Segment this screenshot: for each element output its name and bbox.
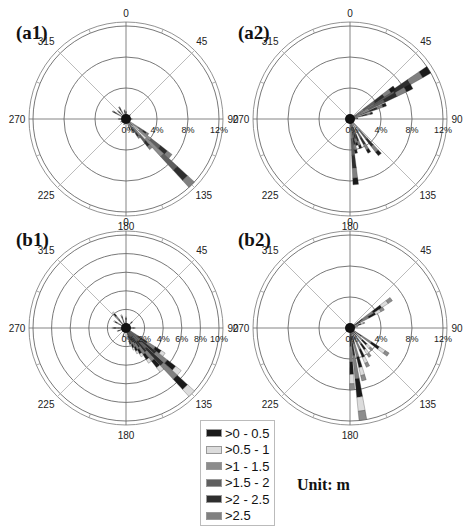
svg-text:270: 270 bbox=[233, 114, 250, 125]
svg-text:180: 180 bbox=[342, 430, 359, 441]
unit-label: Unit: m bbox=[297, 476, 350, 494]
svg-text:0%: 0% bbox=[345, 125, 358, 135]
svg-text:0: 0 bbox=[123, 8, 129, 19]
svg-text:12%: 12% bbox=[210, 125, 228, 135]
svg-text:4%: 4% bbox=[157, 334, 170, 344]
svg-text:4%: 4% bbox=[150, 125, 163, 135]
legend-item: >1.5 - 2 bbox=[206, 475, 274, 492]
svg-text:315: 315 bbox=[262, 36, 279, 47]
svg-text:225: 225 bbox=[262, 399, 279, 410]
legend-swatch bbox=[206, 446, 222, 454]
svg-text:8%: 8% bbox=[194, 334, 207, 344]
svg-text:12%: 12% bbox=[434, 334, 452, 344]
legend-swatch bbox=[206, 479, 222, 487]
svg-text:45: 45 bbox=[420, 36, 432, 47]
legend: >0 - 0.5 >0.5 - 1 >1 - 1.5 >1.5 - 2 >2 -… bbox=[200, 420, 275, 526]
svg-text:4%: 4% bbox=[374, 334, 387, 344]
svg-text:315: 315 bbox=[262, 245, 279, 256]
svg-text:135: 135 bbox=[419, 190, 436, 201]
svg-text:6%: 6% bbox=[175, 334, 188, 344]
svg-text:0%: 0% bbox=[121, 334, 134, 344]
svg-text:90: 90 bbox=[451, 114, 463, 125]
svg-text:10%: 10% bbox=[210, 334, 228, 344]
svg-text:45: 45 bbox=[196, 245, 208, 256]
svg-text:135: 135 bbox=[419, 399, 436, 410]
legend-item: >0.5 - 1 bbox=[206, 442, 274, 459]
svg-text:270: 270 bbox=[233, 323, 250, 334]
legend-swatch bbox=[206, 462, 222, 470]
svg-text:0: 0 bbox=[347, 217, 353, 228]
svg-text:2%: 2% bbox=[138, 334, 151, 344]
svg-text:45: 45 bbox=[196, 36, 208, 47]
svg-text:45: 45 bbox=[420, 245, 432, 256]
svg-text:12%: 12% bbox=[434, 125, 452, 135]
legend-label: >2.5 bbox=[225, 508, 251, 523]
svg-text:135: 135 bbox=[195, 190, 212, 201]
legend-label: >2 - 2.5 bbox=[225, 492, 269, 507]
svg-text:270: 270 bbox=[9, 114, 26, 125]
svg-text:225: 225 bbox=[38, 190, 55, 201]
svg-text:225: 225 bbox=[262, 190, 279, 201]
svg-text:4%: 4% bbox=[374, 125, 387, 135]
legend-swatch bbox=[206, 495, 222, 503]
svg-text:135: 135 bbox=[195, 399, 212, 410]
svg-text:8%: 8% bbox=[405, 334, 418, 344]
legend-swatch bbox=[206, 512, 222, 520]
svg-text:0: 0 bbox=[123, 217, 129, 228]
legend-label: >1 - 1.5 bbox=[225, 459, 269, 474]
legend-swatch bbox=[206, 429, 222, 437]
legend-item: >0 - 0.5 bbox=[206, 425, 274, 442]
legend-label: >0 - 0.5 bbox=[225, 426, 269, 441]
svg-text:8%: 8% bbox=[181, 125, 194, 135]
svg-text:8%: 8% bbox=[405, 125, 418, 135]
svg-text:0: 0 bbox=[347, 8, 353, 19]
legend-label: >1.5 - 2 bbox=[225, 475, 269, 490]
legend-item: >2.5 bbox=[206, 508, 274, 525]
svg-text:270: 270 bbox=[9, 323, 26, 334]
svg-text:0%: 0% bbox=[121, 125, 134, 135]
legend-item: >1 - 1.5 bbox=[206, 458, 274, 475]
svg-text:180: 180 bbox=[118, 430, 135, 441]
legend-item: >2 - 2.5 bbox=[206, 491, 274, 508]
legend-label: >0.5 - 1 bbox=[225, 442, 269, 457]
svg-text:315: 315 bbox=[38, 36, 55, 47]
svg-text:0%: 0% bbox=[345, 334, 358, 344]
svg-text:315: 315 bbox=[38, 245, 55, 256]
svg-text:90: 90 bbox=[451, 323, 463, 334]
svg-text:225: 225 bbox=[38, 399, 55, 410]
